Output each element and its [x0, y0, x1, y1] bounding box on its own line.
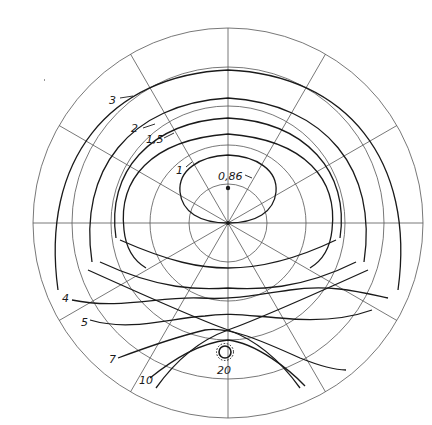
- label-1: 1: [176, 164, 183, 177]
- label-0-86: 0,86: [218, 170, 243, 183]
- max-point-marker: [226, 186, 230, 190]
- label-1-5: 1,5: [146, 133, 164, 146]
- label-10: 10: [139, 374, 153, 387]
- center-point: [226, 221, 230, 225]
- sun-icon: [217, 344, 234, 361]
- label-7: 7: [109, 353, 116, 366]
- isoline-5: [90, 310, 372, 325]
- label-20: 20: [217, 364, 231, 377]
- label-2: 2: [131, 122, 138, 135]
- isoline-7: [118, 329, 346, 370]
- label-3: 3: [109, 94, 116, 107]
- leader-0-86: [245, 175, 252, 178]
- label-4: 4: [62, 292, 69, 305]
- polar-isoline-diagram: 3 2 1,5 1 0,86 4 5 7 10 20: [0, 0, 432, 425]
- leader-2: [143, 124, 155, 128]
- label-5: 5: [81, 316, 88, 329]
